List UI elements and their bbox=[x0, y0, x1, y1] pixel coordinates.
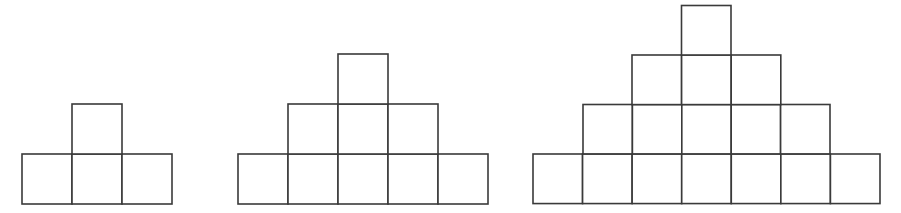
unit-square bbox=[583, 105, 632, 154]
unit-square bbox=[731, 154, 781, 204]
unit-square bbox=[731, 55, 781, 105]
unit-square bbox=[238, 154, 288, 204]
unit-square bbox=[338, 104, 388, 154]
figures-svg-canvas bbox=[0, 0, 901, 213]
figure-1-tier-top bbox=[72, 104, 122, 154]
figure-2-tier-top bbox=[338, 54, 388, 104]
unit-square bbox=[288, 154, 338, 204]
figure-3 bbox=[533, 6, 880, 204]
unit-square bbox=[533, 154, 583, 204]
figure-2-tier-middle bbox=[288, 104, 438, 154]
unit-square bbox=[288, 104, 338, 154]
unit-square bbox=[122, 154, 172, 204]
unit-square bbox=[22, 154, 72, 204]
unit-square bbox=[682, 6, 732, 56]
unit-square bbox=[682, 154, 732, 204]
figure-1-tier-bottom bbox=[22, 154, 172, 204]
figure-sequence-canvas bbox=[0, 0, 901, 213]
figure-3-tier-top bbox=[682, 6, 732, 56]
unit-square bbox=[781, 154, 831, 204]
figure-3-tier-second bbox=[583, 105, 830, 154]
unit-square bbox=[438, 154, 488, 204]
square-pyramid-figures bbox=[0, 0, 901, 213]
unit-square bbox=[731, 105, 780, 154]
unit-square bbox=[388, 154, 438, 204]
unit-square bbox=[72, 154, 122, 204]
unit-square bbox=[632, 154, 682, 204]
unit-square bbox=[632, 105, 681, 154]
unit-square bbox=[682, 55, 732, 105]
unit-square bbox=[338, 54, 388, 104]
unit-square bbox=[388, 104, 438, 154]
unit-square bbox=[830, 154, 880, 204]
unit-square bbox=[583, 154, 633, 204]
figure-3-tier-bottom bbox=[533, 154, 880, 204]
figure-2-tier-bottom bbox=[238, 154, 488, 204]
unit-square bbox=[72, 104, 122, 154]
figure-1 bbox=[22, 104, 172, 204]
figure-2 bbox=[238, 54, 488, 204]
unit-square bbox=[632, 55, 682, 105]
unit-square bbox=[781, 105, 830, 154]
unit-square bbox=[338, 154, 388, 204]
figure-3-tier-third bbox=[632, 55, 781, 105]
unit-square bbox=[682, 105, 731, 154]
